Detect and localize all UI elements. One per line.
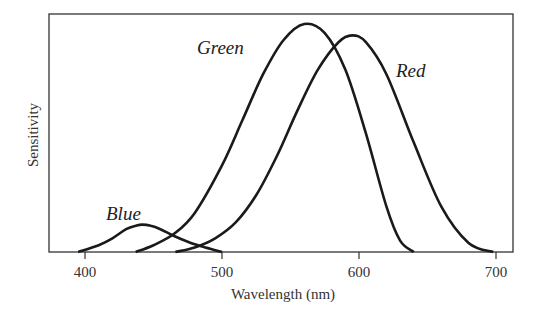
red-sensitivity-curve	[175, 35, 493, 252]
x-tick-label: 700	[485, 264, 508, 280]
blue-curve-label: Blue	[106, 203, 141, 224]
x-axis-label: Wavelength (nm)	[231, 286, 335, 303]
x-axis-ticks: 400500600700	[74, 252, 508, 280]
green-curve-label: Green	[197, 37, 244, 58]
cone-sensitivity-chart: 400500600700 Blue Green Red Wavelength (…	[0, 0, 539, 313]
x-tick-label: 400	[74, 264, 97, 280]
x-tick-label: 600	[348, 264, 371, 280]
red-curve-label: Red	[395, 60, 426, 81]
y-axis-label: Sensitivity	[25, 102, 41, 167]
x-tick-label: 500	[211, 264, 234, 280]
green-sensitivity-curve	[136, 24, 414, 252]
